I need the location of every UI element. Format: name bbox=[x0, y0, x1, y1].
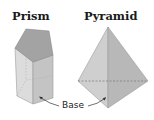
pyramid-left-face bbox=[78, 27, 108, 108]
prism-right-face bbox=[33, 55, 53, 104]
pyramid-right-face bbox=[108, 27, 148, 108]
base-label: Base bbox=[62, 100, 84, 110]
prism-figure bbox=[15, 29, 53, 104]
pyramid-figure bbox=[78, 27, 148, 108]
